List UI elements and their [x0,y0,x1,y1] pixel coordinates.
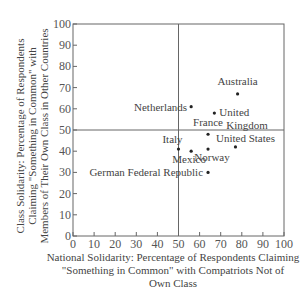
y-tick-label: 20 [59,187,71,201]
y-tick-label: 60 [59,102,71,116]
data-point [234,145,237,148]
y-tick-label: 90 [59,38,71,52]
y-axis-label: Class Solidarity: Percentage of Responde… [14,39,26,234]
point-label: Italy [162,133,183,145]
scatter-chart: 0102030405060708090100010203040506070809… [0,0,307,298]
x-tick-label: 50 [173,237,185,251]
y-tick-label: 100 [53,17,71,31]
point-label: United [219,106,249,118]
y-tick-label: 30 [59,165,71,179]
y-tick-label: 0 [65,229,71,243]
x-axis-label: National Solidarity: Percentage of Respo… [47,251,300,263]
x-tick-label: 20 [109,237,121,251]
x-tick-label: 60 [194,237,206,251]
point-label: Kingdom [226,119,268,131]
y-tick-label: 80 [59,59,71,73]
data-point [190,105,193,108]
point-label: Mexico [172,153,206,165]
x-axis-label: Own Class [149,277,197,289]
point-label: German Federal Republic [89,166,203,178]
x-tick-label: 10 [88,237,100,251]
x-tick-label: 80 [236,237,248,251]
x-tick-label: 90 [257,237,269,251]
data-point [206,171,209,174]
y-axis-label: Claiming "Something in Common" with [26,47,38,225]
data-point [206,133,209,136]
x-tick-label: 30 [130,237,142,251]
y-tick-label: 40 [59,144,71,158]
point-label: Netherlands [134,101,187,113]
data-point [213,111,216,114]
point-label: France [193,116,223,128]
data-point [177,147,180,150]
y-tick-label: 10 [59,208,71,222]
y-tick-label: 70 [59,81,71,95]
point-label: Australia [217,75,257,87]
data-point [236,92,239,95]
x-axis-label: "Something in Common" with Compatriots N… [62,264,285,276]
x-tick-label: 40 [151,237,163,251]
x-tick-label: 70 [215,237,227,251]
y-axis-label: Members of Their Own Class in Other Coun… [38,28,50,243]
y-tick-label: 50 [59,123,71,137]
point-label: United States [216,132,275,144]
x-tick-label: 100 [275,237,293,251]
